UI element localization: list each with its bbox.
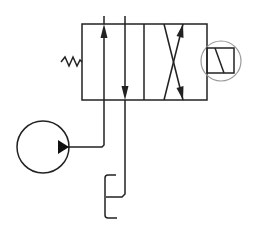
arrowhead-up-icon (101, 24, 108, 38)
solenoid-actuator (201, 41, 241, 81)
spring-icon (61, 57, 82, 66)
hydraulic-circuit-diagram (0, 0, 257, 232)
directional-valve (82, 16, 207, 100)
cross-arrowhead-bottom-icon (177, 86, 184, 100)
pump (17, 121, 69, 173)
pump-direction-triangle-icon (58, 140, 69, 154)
arrowhead-down-icon (122, 86, 129, 100)
pressure-line (66, 100, 104, 147)
return-line (106, 100, 125, 197)
solenoid-coil-icon (207, 48, 234, 73)
solenoid-diagonal (215, 48, 224, 73)
cross-arrowhead-top-icon (177, 24, 184, 38)
